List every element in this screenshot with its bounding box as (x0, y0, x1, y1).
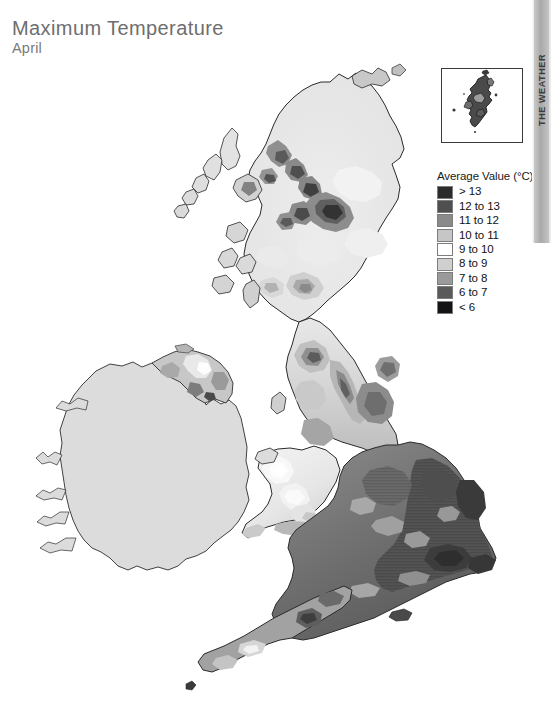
legend-label: 6 to 7 (459, 287, 487, 299)
legend-swatch (437, 301, 453, 314)
legend-swatch (437, 286, 453, 299)
climate-map-page: Maximum Temperature April Average Value … (0, 0, 551, 706)
shetland-islands-inset (441, 68, 523, 143)
legend-label: 12 to 13 (459, 201, 500, 213)
legend-item: 7 to 8 (437, 271, 545, 285)
legend-item: 10 to 11 (437, 228, 545, 242)
isle-of-wight (389, 609, 412, 621)
legend-label: < 6 (459, 302, 475, 314)
legend-item: > 13 (437, 185, 545, 199)
region-northern-england (286, 318, 400, 455)
legend-swatch (437, 214, 453, 227)
legend-item: 8 to 9 (437, 257, 545, 271)
legend-swatch (437, 258, 453, 271)
book-edge-tab: THE WEATHER (532, 0, 551, 243)
legend-label: > 13 (459, 186, 481, 198)
title-block: Maximum Temperature April (12, 18, 224, 56)
book-edge-tab-label: THE WEATHER (533, 30, 550, 150)
legend-label: 7 to 8 (459, 273, 487, 285)
legend-rows: > 1312 to 1311 to 1210 to 119 to 108 to … (437, 185, 545, 315)
legend-label: 11 to 12 (459, 215, 499, 227)
legend-label: 8 to 9 (459, 258, 487, 270)
legend-swatch (437, 243, 453, 256)
legend-label: 9 to 10 (459, 244, 493, 256)
legend-item: < 6 (437, 300, 545, 314)
legend: Average Value (°C) > 1312 to 1311 to 121… (437, 170, 545, 315)
legend-item: 9 to 10 (437, 243, 545, 257)
legend-label: 10 to 11 (459, 230, 499, 242)
legend-swatch (437, 229, 453, 242)
legend-title: Average Value (°C) (437, 170, 545, 182)
legend-item: 11 to 12 (437, 214, 545, 228)
page-subtitle: April (12, 41, 224, 56)
region-scotland (244, 73, 404, 322)
legend-swatch (437, 200, 453, 213)
edge-tab-text: THE WEATHER (537, 54, 547, 126)
legend-item: 6 to 7 (437, 286, 545, 300)
region-south-west-england (186, 586, 352, 690)
legend-swatch (437, 186, 453, 199)
page-title: Maximum Temperature (12, 18, 224, 39)
isle-of-man (271, 392, 286, 414)
shetland-inset-map (442, 69, 522, 142)
legend-swatch (437, 272, 453, 285)
legend-item: 12 to 13 (437, 199, 545, 213)
